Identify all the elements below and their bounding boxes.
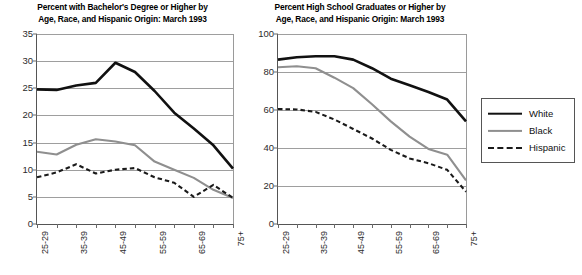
y-axis-tick-label: 0: [269, 219, 274, 229]
x-axis-tick-label: 25-29: [282, 231, 291, 254]
x-axis-tick-label: 75+: [470, 231, 479, 246]
series-line-white: [278, 56, 466, 121]
x-axis-tick-mark: [466, 224, 467, 228]
legend-swatch-white-icon: [487, 109, 523, 119]
x-axis-tick-label: 45-49: [357, 231, 366, 254]
x-axis-tick-mark: [334, 224, 335, 228]
legend-label-hispanic: Hispanic: [529, 142, 565, 153]
y-axis-tick-label: 30: [22, 56, 33, 66]
panel-title-line-2: Age, Race, and Hispanic Origin: March 19…: [0, 14, 245, 26]
y-axis-tick-label: 20: [22, 111, 33, 121]
legend-label-white: White: [529, 108, 553, 119]
x-axis-tick-mark: [213, 224, 214, 228]
x-axis-tick-label: 55-59: [159, 231, 168, 254]
x-axis-tick-mark: [96, 224, 97, 228]
y-axis-tick-label: 60: [263, 105, 274, 115]
x-axis-tick-mark: [447, 224, 448, 228]
x-axis-tick-mark: [155, 224, 156, 228]
figure-educational-attainment: Percent with Bachelor's Degree or Higher…: [0, 0, 582, 275]
x-axis-tick-mark: [37, 224, 38, 228]
series-line-hispanic: [278, 109, 466, 192]
x-axis-tick-mark: [372, 224, 373, 228]
legend-swatch-hispanic-icon: [487, 143, 523, 153]
series-layer: [278, 34, 466, 224]
x-axis-tick-mark: [135, 224, 136, 228]
legend-item-white: White: [487, 105, 569, 122]
series-line-black: [278, 66, 466, 180]
x-axis-tick-label: 35-39: [80, 231, 89, 254]
y-axis-tick-label: 100: [258, 29, 274, 39]
plot-right-border: [233, 34, 234, 224]
chart-legend: White Black Hispanic: [481, 98, 575, 163]
y-axis-tick-label: 0: [28, 219, 33, 229]
x-axis-tick-mark: [428, 224, 429, 228]
x-axis-tick-mark: [174, 224, 175, 228]
y-axis-tick-label: 25: [22, 84, 33, 94]
legend-item-black: Black: [487, 122, 569, 139]
legend-item-hispanic: Hispanic: [487, 139, 569, 156]
x-axis-tick-mark: [194, 224, 195, 228]
x-axis-tick-mark: [278, 224, 279, 228]
series-layer: [37, 34, 233, 224]
y-axis-tick-label: 40: [263, 143, 274, 153]
y-axis-tick-label: 80: [263, 67, 274, 77]
series-line-white: [37, 63, 233, 169]
y-axis-tick-label: 20: [263, 181, 274, 191]
x-axis-tick-mark: [57, 224, 58, 228]
panel-title-bachelors: Percent with Bachelor's Degree or Higher…: [0, 2, 245, 25]
chart-panel-bachelors-degree: Percent with Bachelor's Degree or Higher…: [0, 0, 245, 275]
x-axis-tick-mark: [353, 224, 354, 228]
x-axis-tick-label: 65-69: [198, 231, 207, 254]
plot-area-bachelors: 0510152025303525-2935-3945-4955-5965-697…: [36, 34, 233, 225]
x-axis-tick-mark: [76, 224, 77, 228]
y-axis-tick-label: 15: [22, 138, 33, 148]
x-axis-tick-label: 25-29: [41, 231, 50, 254]
y-axis-tick-label: 5: [28, 192, 33, 202]
panel-title-line-1: Percent with Bachelor's Degree or Higher…: [0, 2, 245, 14]
x-axis-tick-label: 45-49: [119, 231, 128, 254]
panel-title-line-2: Age, Race, and Hispanic Origin: March 19…: [245, 14, 475, 26]
series-line-hispanic: [37, 164, 233, 198]
x-axis-tick-mark: [115, 224, 116, 228]
x-axis-tick-mark: [297, 224, 298, 228]
y-axis-tick-label: 35: [22, 29, 33, 39]
panel-title-line-1: Percent High School Graduates or Higher …: [245, 2, 475, 14]
x-axis-tick-mark: [410, 224, 411, 228]
x-axis-tick-mark: [391, 224, 392, 228]
y-axis-tick-label: 10: [22, 165, 33, 175]
x-axis-tick-label: 55-59: [395, 231, 404, 254]
x-axis-tick-label: 65-69: [432, 231, 441, 254]
panel-title-high-school: Percent High School Graduates or Higher …: [245, 2, 475, 25]
legend-swatch-black-icon: [487, 126, 523, 136]
x-axis-tick-label: 35-39: [320, 231, 329, 254]
x-axis-tick-mark: [233, 224, 234, 228]
chart-panel-high-school: Percent High School Graduates or Higher …: [245, 0, 475, 275]
legend-label-black: Black: [529, 125, 552, 136]
plot-right-border: [466, 34, 467, 224]
plot-area-high-school: 02040608010025-2935-3945-4955-5965-6975+: [277, 34, 466, 225]
x-axis-tick-mark: [316, 224, 317, 228]
